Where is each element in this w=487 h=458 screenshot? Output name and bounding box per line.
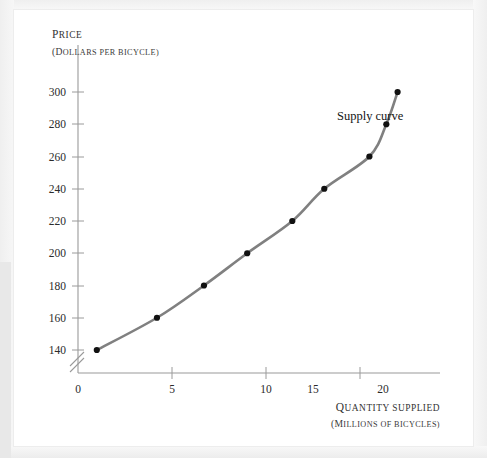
x-axis-subtitle: (MILLIONS OF BICYCLES) (331, 418, 440, 430)
data-point-260 (366, 153, 372, 159)
data-point-240 (321, 186, 327, 192)
figure-root: 140 160 180 200 220 240 260 280 300 0 5 … (0, 0, 487, 458)
supply-curve-markers (94, 89, 401, 353)
data-point-220 (289, 218, 295, 224)
data-point-200 (244, 250, 250, 256)
data-point-180 (201, 282, 207, 288)
data-point-140 (94, 347, 100, 353)
x-axis-title-rest: UANTITY SUPPLIED (345, 403, 440, 413)
y-tick-label-240: 240 (49, 183, 67, 195)
x-tick-label-15: 15 (307, 383, 319, 395)
x-tick-label-0: 0 (75, 383, 81, 395)
y-tick-label-260: 260 (49, 151, 67, 163)
x-tick-label-20: 20 (377, 383, 389, 395)
x-axis-subtitle-rest: ILLIONS OF BICYCLES) (343, 420, 440, 429)
supply-curve-line (97, 92, 398, 350)
y-tick-label-180: 180 (49, 280, 67, 292)
x-tick-label-10: 10 (260, 383, 272, 395)
y-tick-label-160: 160 (49, 312, 67, 324)
data-point-160 (154, 315, 160, 321)
data-point-300 (395, 89, 401, 95)
x-axis-title-lead: Q (336, 401, 345, 413)
y-axis-subtitle-rest: OLLARS PER BICYCLE) (63, 48, 159, 57)
y-tick-label-280: 280 (49, 118, 67, 130)
y-tick-label-140: 140 (49, 344, 67, 356)
supply-curve-annotation: Supply curve (337, 109, 404, 123)
x-axis-subtitle-lead: (M (331, 418, 343, 430)
y-tick-label-300: 300 (49, 86, 67, 98)
y-axis-subtitle: (DOLLARS PER BICYCLE) (52, 46, 159, 58)
y-axis-title-rest: RICE (59, 30, 82, 40)
supply-curve-chart: 140 160 180 200 220 240 260 280 300 0 5 … (0, 0, 487, 458)
y-tick-label-220: 220 (49, 215, 67, 227)
x-axis-title: QUANTITY SUPPLIED (336, 401, 440, 413)
y-axis-break-icon (70, 352, 84, 372)
y-axis-title-lead: P (52, 28, 59, 40)
y-axis-title: PRICE (52, 28, 82, 40)
y-tick-label-200: 200 (49, 247, 67, 259)
x-tick-label-5: 5 (169, 383, 175, 395)
y-axis-subtitle-lead: (D (52, 46, 63, 58)
